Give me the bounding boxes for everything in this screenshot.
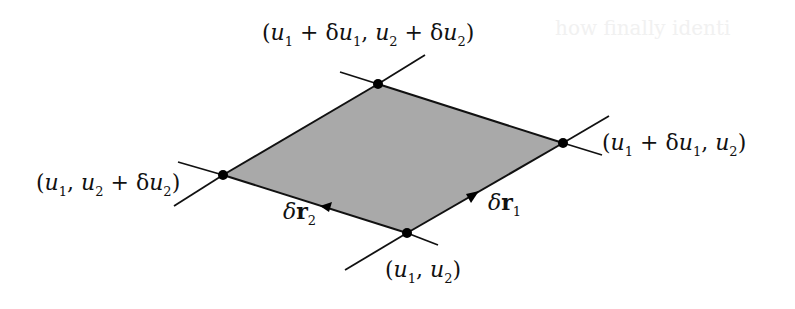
subscript: 2 <box>729 144 737 159</box>
subscript: 1 <box>408 271 416 286</box>
var: u <box>394 257 408 282</box>
subscript: 2 <box>444 271 452 286</box>
label-left-vertex: (u1, u2 + δu2) <box>36 170 180 199</box>
subscript: 2 <box>308 213 316 228</box>
subscript: 1 <box>59 184 67 199</box>
var: u <box>149 170 163 195</box>
paren: ) <box>738 130 747 155</box>
ghost-background-text: how finally identi <box>555 16 730 40</box>
subscript: 2 <box>95 184 103 199</box>
ext-top-left <box>340 72 378 84</box>
comma: , <box>67 170 81 195</box>
subscript: 1 <box>693 144 701 159</box>
ext-left-up <box>178 162 223 175</box>
operator: + δ <box>398 20 444 45</box>
subscript: 1 <box>625 144 633 159</box>
var: u <box>339 20 353 45</box>
vertex-right <box>558 138 568 148</box>
comma: , <box>361 20 375 45</box>
var: u <box>611 130 625 155</box>
paren: ) <box>466 20 475 45</box>
var: u <box>375 20 389 45</box>
subscript: 1 <box>285 34 293 49</box>
vector-symbol: r <box>501 189 513 215</box>
subscript: 2 <box>457 34 465 49</box>
var: u <box>443 20 457 45</box>
paren: ( <box>36 170 45 195</box>
paren: ( <box>602 130 611 155</box>
comma: , <box>416 257 430 282</box>
vertex-left <box>218 170 228 180</box>
vertex-top <box>373 79 383 89</box>
operator: + δ <box>633 130 679 155</box>
vector-symbol: r <box>296 198 308 224</box>
label-delta-r1: δr1 <box>488 189 521 219</box>
var: u <box>430 257 444 282</box>
var: u <box>45 170 59 195</box>
operator: + δ <box>293 20 339 45</box>
paren: ) <box>172 170 181 195</box>
ext-right-down <box>563 143 602 155</box>
surface-element-diagram: how finally identi (u1 + δu1, u2 + δu2) … <box>0 0 795 309</box>
label-top-vertex: (u1 + δu1, u2 + δu2) <box>262 20 474 49</box>
label-right-vertex: (u1 + δu1, u2) <box>602 130 746 159</box>
delta-symbol: δ <box>283 199 296 224</box>
subscript: 2 <box>389 34 397 49</box>
label-bottom-vertex: (u1, u2) <box>385 257 461 286</box>
paren: ) <box>453 257 462 282</box>
var: u <box>715 130 729 155</box>
operator: + δ <box>104 170 150 195</box>
var: u <box>81 170 95 195</box>
paren: ( <box>385 257 394 282</box>
subscript: 2 <box>163 184 171 199</box>
subscript: 1 <box>513 204 521 219</box>
ext-top-right <box>378 55 425 84</box>
comma: , <box>701 130 715 155</box>
ext-left-down <box>174 175 223 206</box>
paren: ( <box>262 20 271 45</box>
delta-symbol: δ <box>488 190 501 215</box>
subscript: 1 <box>353 34 361 49</box>
var: u <box>271 20 285 45</box>
var: u <box>679 130 693 155</box>
vertex-bottom <box>402 228 412 238</box>
